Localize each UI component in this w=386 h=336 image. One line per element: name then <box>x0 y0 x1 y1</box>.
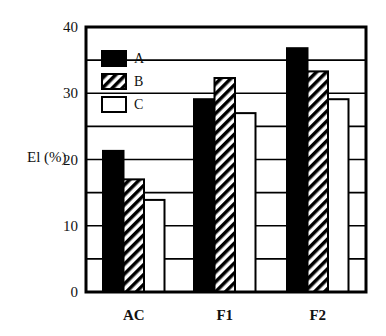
bar-AC-A <box>103 151 124 292</box>
bar-F1-B <box>215 78 236 292</box>
y-tick-label: 30 <box>63 85 78 101</box>
bar-F2-B <box>308 71 329 292</box>
y-tick-label: 10 <box>63 218 78 234</box>
legend-swatch-C <box>102 97 126 112</box>
legend: ABC <box>102 51 145 112</box>
bar-F1-C <box>235 113 256 292</box>
x-category-label: F2 <box>309 307 326 323</box>
x-category-label: F1 <box>216 307 233 323</box>
legend-swatch-B <box>102 74 126 89</box>
bar-AC-B <box>124 179 145 292</box>
x-axis-categories: ACF1F2 <box>123 307 326 323</box>
bar-chart: 010203040 ACF1F2 El (%) ABC <box>0 0 386 336</box>
legend-label: A <box>134 51 145 66</box>
x-category-label: AC <box>123 307 145 323</box>
y-axis-label: El (%) <box>27 149 67 166</box>
legend-label: B <box>134 74 143 89</box>
y-tick-label: 0 <box>71 284 79 300</box>
bar-F1-A <box>194 99 215 292</box>
y-tick-label: 40 <box>63 19 78 35</box>
bar-F2-A <box>287 48 308 292</box>
legend-swatch-A <box>102 51 126 66</box>
bar-AC-C <box>144 200 165 292</box>
bar-F2-C <box>328 99 349 292</box>
legend-label: C <box>134 97 143 112</box>
